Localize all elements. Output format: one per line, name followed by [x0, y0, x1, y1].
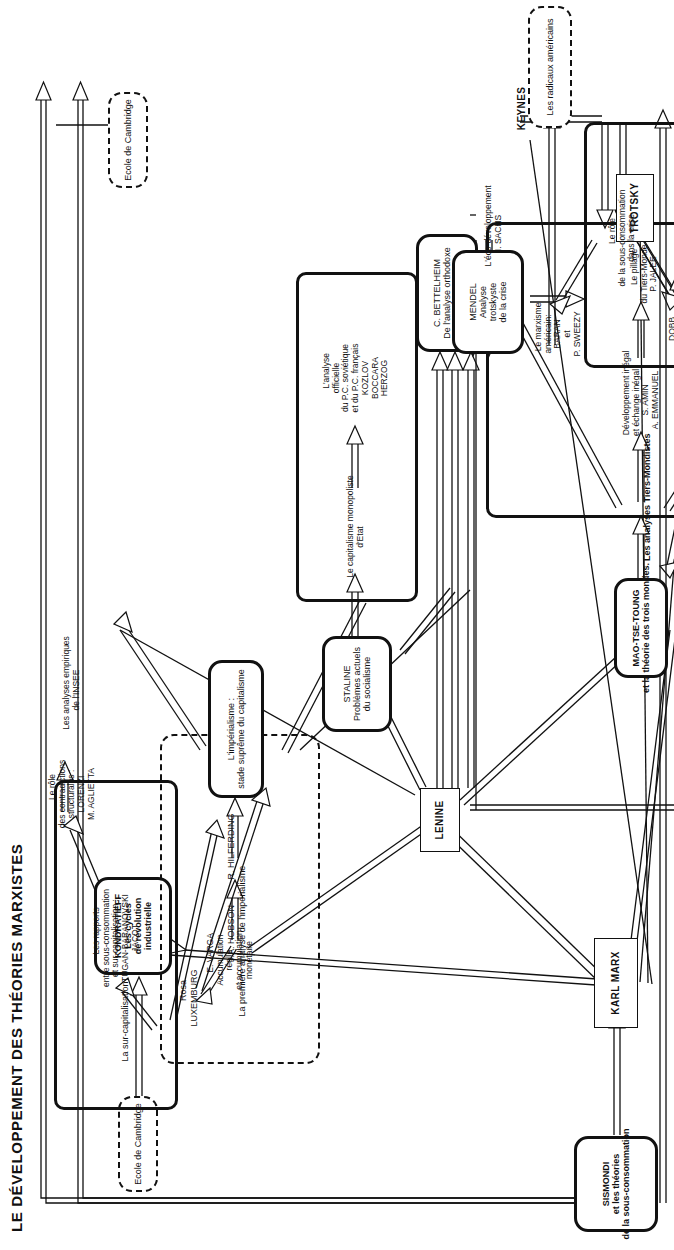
node-ecole-cambridge-top-label: Ecole de Cambridge: [133, 1100, 143, 1188]
node-staline-label: STALINE Problèmes actuels du socialisme: [342, 644, 372, 724]
label-analyses-tiers-mondistes: Les analyses Tiers-Mondistes: [632, 498, 663, 576]
node-imperialisme-label: L'impérialisme : stade suprême du capita…: [226, 666, 246, 792]
label-varga: E. VARGA Accumulation réelle et accumula…: [196, 902, 264, 1018]
label-role-sous-consommation: Le rôle de la sous-consommation dans la …: [598, 178, 647, 298]
label-eco-developpement: L'éco-développement I. SACHS: [474, 178, 513, 288]
label-dusmenil: DUSMENIL: [668, 194, 674, 278]
label-dobb: DOBB L'acceptation de la loi de Keynes: [658, 294, 674, 378]
node-mao[interactable]: MAO-TSE-TOUNG et la théorie des trois mo…: [614, 578, 668, 678]
node-sismondi[interactable]: SISMONDI et les théories de la sous-cons…: [574, 1136, 658, 1232]
label-analyse-officielle: L'analyse officielle du P.C. soviétique …: [312, 318, 400, 438]
node-keynes-label: KEYNES: [516, 87, 527, 131]
diagram-page: SISMONDI et les théories de la sous-cons…: [0, 0, 674, 1250]
node-imperialisme[interactable]: L'impérialisme : stade suprême du capita…: [208, 660, 264, 798]
page-title: LE DÉVELOPPEMENT DES THÉORIES MARXISTES: [8, 844, 25, 1232]
node-hilferding[interactable]: R. HILFERDING: [216, 810, 247, 898]
label-capitalisme-monopoliste: Le capitalisme monopoliste d'Etat: [336, 482, 375, 592]
node-lenine[interactable]: LENINE: [420, 788, 460, 852]
node-hilferding-label: R. HILFERDING: [226, 813, 236, 879]
node-mao-label: MAO-TSE-TOUNG et la théorie des trois mo…: [631, 560, 651, 696]
node-ecole-cambridge-bottom-label: Ecole de Cambridge: [123, 96, 133, 184]
node-karl-marx-label: KARL MARX: [610, 948, 621, 1017]
node-radicaux-americains-label: Les radicaux américains: [545, 15, 555, 118]
node-lenine-label: LENINE: [434, 797, 445, 842]
diagram-canvas: SISMONDI et les théories de la sous-cons…: [0, 0, 674, 1250]
node-sismondi-label: SISMONDI et les théories de la sous-cons…: [601, 1125, 631, 1242]
node-ecole-cambridge-bottom[interactable]: Ecole de Cambridge: [108, 92, 148, 188]
node-radicaux-americains[interactable]: Les radicaux américains: [528, 6, 572, 128]
node-staline[interactable]: STALINE Problèmes actuels du socialisme: [322, 636, 392, 732]
label-marxisme-americain: Le marxisme américain: BARAN et P. SWEEZ…: [524, 292, 592, 376]
node-ecole-cambridge-top[interactable]: Ecole de Cambridge: [118, 1096, 158, 1192]
node-karl-marx[interactable]: KARL MARX: [594, 938, 638, 1028]
label-analyses-insee: Les analyses empiriques de l'INSEE: [52, 620, 91, 760]
label-rapports-sous-sur-capitalisation: Les rapports entre sous-consommation et …: [82, 858, 150, 1018]
